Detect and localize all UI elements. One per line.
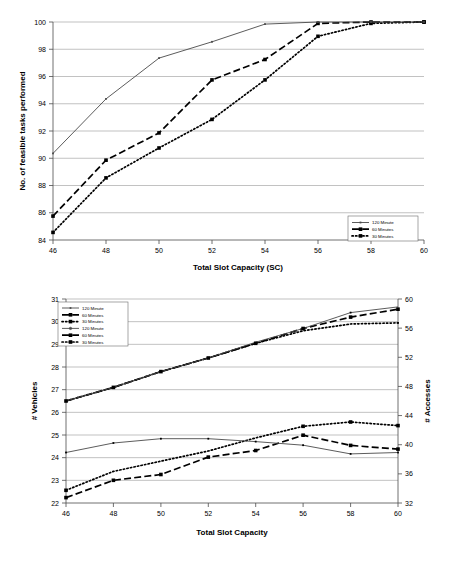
legend-label-accesses-60-minutes: 60 Minutes (82, 333, 104, 338)
y-tick-label: 92 (38, 128, 46, 135)
y-tick-label-right: 36 (405, 470, 413, 477)
legend-label-60-minutes: 60 Minutes (372, 227, 394, 232)
feasible-tasks-plot: 100 98 96 94 92 90 88 86 84 46 48 50 52 (0, 0, 449, 283)
y-tick-labels: 100 98 96 94 92 90 88 86 84 (34, 19, 46, 244)
x-tick-labels: 46 48 50 52 54 56 58 60 (49, 247, 428, 254)
x-tick-label: 56 (299, 510, 307, 517)
y-tick-label-right: 44 (405, 412, 413, 419)
x-tick-label: 60 (394, 510, 402, 517)
y-tick-label: 24 (51, 454, 59, 461)
x-tick-label: 54 (261, 247, 269, 254)
x-tick-label: 46 (62, 510, 70, 517)
y-tick-label: 31 (51, 296, 59, 303)
y-tick-labels-right: 60 56 52 48 44 40 36 32 (405, 296, 413, 507)
x-tick-label: 48 (102, 247, 110, 254)
y-axis-title-right: # Accesses (423, 379, 432, 423)
y-tick-label: 96 (38, 73, 46, 80)
vehicles-accesses-chart: 31 30 29 28 27 26 25 24 23 22 60 56 52 4 (0, 283, 449, 565)
y-tick-label: 88 (38, 182, 46, 189)
legend-label-vehicles-60-minutes: 60 Minutes (82, 313, 104, 318)
y-tick-label: 100 (34, 19, 46, 26)
y-tick-label: 22 (51, 500, 59, 507)
x-axis-title: Total Slot Capacity (SC) (193, 263, 283, 272)
y-axis-title-left: # Vehicles (30, 381, 39, 420)
y-tick-label-right: 52 (405, 354, 413, 361)
x-tick-label: 56 (314, 247, 322, 254)
y-tick-label-right: 48 (405, 383, 413, 390)
y-axis-title: No. of feasible tasks performed (18, 71, 27, 190)
x-tick-label: 58 (367, 247, 375, 254)
y-tick-label: 84 (38, 237, 46, 244)
y-tick-label: 26 (51, 409, 59, 416)
x-tick-label: 54 (252, 510, 260, 517)
legend-label-120-minute: 120 Minute (372, 220, 394, 225)
legend-label-vehicles-120-minute: 120 Minute (82, 306, 104, 311)
x-tick-label: 52 (208, 247, 216, 254)
y-tick-label: 90 (38, 155, 46, 162)
y-tick-label-right: 32 (405, 500, 413, 507)
legend-label-accesses-120-minute: 120 Minute (82, 326, 104, 331)
x-tick-label: 60 (420, 247, 428, 254)
vehicles-accesses-plot: 31 30 29 28 27 26 25 24 23 22 60 56 52 4 (0, 283, 449, 565)
y-tick-label: 98 (38, 46, 46, 53)
legend-label-30-minutes: 30 Minutes (372, 234, 394, 239)
x-tick-label: 52 (204, 510, 212, 517)
legend: 120 Minute 60 Minutes 30 Minutes 120 Min… (58, 302, 128, 346)
y-tick-label: 28 (51, 364, 59, 371)
y-tickmarks-right (398, 299, 402, 503)
legend-label-vehicles-30-minutes: 30 Minutes (82, 319, 104, 324)
x-tick-label: 46 (49, 247, 57, 254)
y-tick-label-right: 40 (405, 441, 413, 448)
legend-label-accesses-30-minutes: 30 Minutes (82, 340, 104, 345)
y-tick-label: 25 (51, 432, 59, 439)
y-tick-label: 23 (51, 477, 59, 484)
y-tick-label: 27 (51, 386, 59, 393)
x-tick-labels: 46 48 50 52 54 56 58 60 (62, 510, 402, 517)
legend: 120 Minute 60 Minutes 30 Minutes (348, 216, 418, 241)
x-tick-label: 58 (347, 510, 355, 517)
y-tick-label: 86 (38, 209, 46, 216)
x-tick-label: 50 (157, 510, 165, 517)
y-tickmarks (49, 22, 53, 240)
x-tick-label: 48 (110, 510, 118, 517)
feasible-tasks-chart: 100 98 96 94 92 90 88 86 84 46 48 50 52 (0, 0, 449, 283)
x-tick-label: 50 (155, 247, 163, 254)
x-tickmarks (66, 503, 398, 507)
y-tick-label: 94 (38, 100, 46, 107)
y-tick-label-right: 56 (405, 325, 413, 332)
y-tick-label-right: 60 (405, 296, 413, 303)
x-axis-title: Total Slot Capacity (196, 528, 268, 537)
